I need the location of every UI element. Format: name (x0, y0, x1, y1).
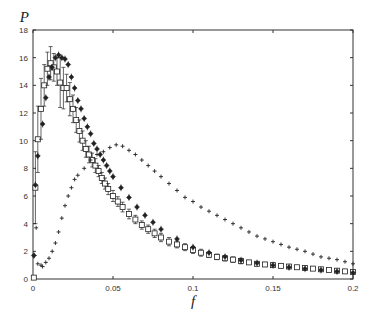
y-tick-label: 2 (24, 247, 29, 256)
y-tick-label: 4 (24, 220, 29, 229)
x-tick-label: 0.05 (105, 284, 121, 293)
y-tick-label: 0 (24, 275, 29, 284)
x-tick-label: 0 (31, 284, 36, 293)
plot-area (31, 47, 355, 281)
y-tick-label: 10 (19, 137, 28, 146)
y-tick-label: 12 (19, 109, 28, 118)
x-tick-label: 0.15 (265, 284, 281, 293)
y-tick-label: 6 (24, 192, 29, 201)
series-diamonds (31, 51, 355, 276)
y-tick-label: 18 (19, 26, 28, 35)
y-tick-label: 16 (19, 54, 28, 63)
y-tick-label: 14 (19, 81, 28, 90)
x-tick-label: 0.2 (347, 284, 359, 293)
x-axis-label: f (191, 293, 197, 309)
y-axis-label: P (19, 9, 29, 25)
y-tick-label: 8 (24, 164, 29, 173)
plot-frame (33, 30, 353, 279)
chart: 00.050.10.150.2 024681012141618 P f (0, 0, 370, 323)
x-tick-label: 0.1 (187, 284, 199, 293)
